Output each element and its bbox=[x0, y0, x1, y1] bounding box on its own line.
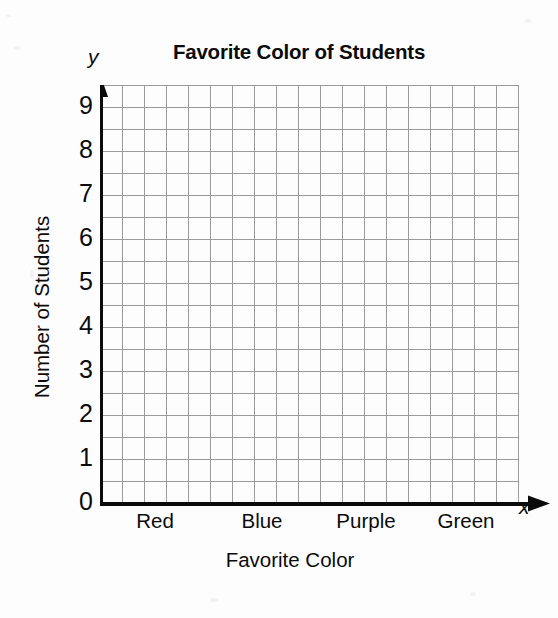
x-tick-label-green: Green bbox=[396, 509, 536, 533]
scan-speckle bbox=[525, 18, 531, 23]
y-tick-label: 5 bbox=[63, 269, 93, 294]
y-axis-title: Number of Students bbox=[30, 182, 54, 432]
plot-area bbox=[100, 85, 518, 505]
y-tick-label: 8 bbox=[63, 137, 93, 162]
y-tick-label: 4 bbox=[63, 313, 93, 338]
x-axis-title: Favorite Color bbox=[190, 548, 390, 572]
y-tick-label: 2 bbox=[63, 401, 93, 426]
y-tick-label: 7 bbox=[63, 181, 93, 206]
scan-speckle bbox=[210, 598, 219, 602]
y-tick-label: 6 bbox=[63, 225, 93, 250]
grid-canvas bbox=[100, 85, 558, 535]
scan-speckle bbox=[6, 14, 11, 17]
scan-speckle bbox=[470, 592, 476, 596]
y-tick-label: 3 bbox=[63, 357, 93, 382]
y-tick-label: 1 bbox=[63, 445, 93, 470]
worksheet-page: Favorite Color of Students y x Number of… bbox=[0, 0, 558, 618]
x-axis-tick-labels: RedBluePurpleGreen bbox=[0, 509, 558, 541]
y-tick-label: 9 bbox=[63, 93, 93, 118]
